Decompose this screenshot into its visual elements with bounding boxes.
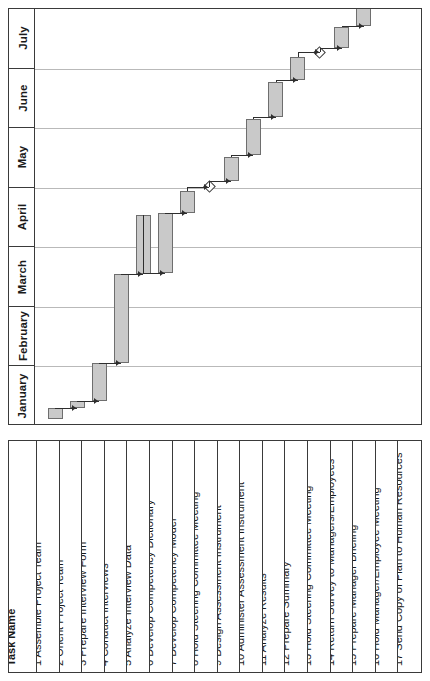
task-row-15[interactable]: 15 Prepare Manager Briefing: [353, 441, 376, 672]
task-label: 3 Prepare Interview Form: [82, 542, 87, 666]
dependency-arrow: [359, 23, 363, 29]
task-row-1[interactable]: 1 Assemble Project Team: [37, 441, 60, 672]
gantt-bar-task-1: [48, 408, 63, 419]
task-row-6[interactable]: 6 Develop Competency Dictionary: [150, 441, 173, 672]
month-label-text: April: [16, 204, 28, 231]
gantt-plot-area: [35, 8, 422, 425]
task-row-17[interactable]: 17 Send Copy of Plan to Human Resources: [398, 441, 421, 672]
task-row-11[interactable]: 11 Analyze Results: [263, 441, 286, 672]
task-label: 8 Hold Steering Committee Meeting: [195, 492, 200, 666]
task-label: 14 Return Survey to Managers/Employees: [331, 459, 336, 666]
month-label-text: February: [17, 311, 29, 361]
task-name-table: Task Name1 Assemble Project Team2 Orient…: [8, 440, 422, 673]
task-label: 16 Hold Manager/Employee Meeting: [376, 487, 381, 666]
month-label-text: March: [17, 259, 29, 293]
task-row-8[interactable]: 8 Hold Steering Committee Meeting: [195, 441, 218, 672]
task-label: 5 Analyze Interview Data: [127, 545, 132, 666]
task-label: 12 Prepare Summary: [285, 561, 290, 666]
task-label: 10 Administer Assessment Instrument: [240, 482, 245, 666]
month-label-april: April: [9, 188, 36, 248]
gantt-bar-task-11: [268, 82, 283, 118]
dependency-arrow: [248, 152, 252, 158]
task-row-5[interactable]: 5 Analyze Interview Data: [127, 441, 150, 672]
task-label: 7 Develop Competency Model: [173, 519, 178, 666]
gantt-bar-task-10: [246, 119, 261, 155]
task-row-9[interactable]: 9 Design Assessment Instrument: [218, 441, 241, 672]
task-label: 9 Design Assessment Instrument: [218, 505, 223, 666]
gantt-bar-task-4: [114, 274, 129, 363]
month-gridline: [35, 128, 421, 129]
month-label-text: July: [16, 27, 28, 50]
task-row-7[interactable]: 7 Develop Competency Model: [173, 441, 196, 672]
month-label-january: January: [9, 366, 36, 426]
dependency-arrow: [160, 270, 164, 276]
gantt-chart: JulyJuneMayAprilMarchFebruaryJanuary Tas…: [0, 0, 430, 681]
task-label: 11 Analyze Results: [263, 573, 268, 666]
month-label-may: May: [9, 128, 36, 188]
task-label: 2 Orient Project Team: [60, 560, 65, 666]
dependency-arrow: [271, 114, 275, 120]
month-label-june: June: [9, 69, 36, 129]
task-row-13[interactable]: 13 Hold Steering Committee Meeting: [308, 441, 331, 672]
dependency-arrow: [226, 178, 230, 184]
month-gridline: [35, 247, 421, 248]
month-label-text: May: [16, 146, 28, 169]
dependency-link: [143, 215, 144, 273]
task-label: 1 Assemble Project Team: [37, 542, 42, 666]
month-label-february: February: [9, 307, 36, 367]
dependency-arrow: [315, 49, 319, 55]
task-row-12[interactable]: 12 Prepare Summary: [285, 441, 308, 672]
dependency-arrow: [138, 271, 142, 277]
task-label: 6 Develop Competency Dictionary: [150, 500, 155, 666]
month-gridline: [35, 69, 421, 70]
month-gridline: [35, 307, 421, 308]
dependency-arrow: [182, 210, 186, 216]
dependency-arrow: [72, 405, 76, 411]
task-label: 17 Send Copy of Plan to Human Resources: [398, 453, 404, 666]
month-label-march: March: [9, 247, 36, 307]
dependency-arrow: [204, 184, 208, 190]
month-gridline: [35, 188, 421, 189]
dependency-arrow: [94, 398, 98, 404]
month-label-july: July: [9, 9, 36, 69]
gantt-bar-task-3: [92, 363, 107, 401]
task-label: 13 Hold Steering Committee Meeting: [308, 486, 313, 666]
dependency-arrow: [337, 45, 341, 51]
task-label: 15 Prepare Manager Briefing: [353, 525, 358, 666]
task-row-3[interactable]: 3 Prepare Interview Form: [82, 441, 105, 672]
task-row-14[interactable]: 14 Return Survey to Managers/Employees: [331, 441, 354, 672]
task-row-2[interactable]: 2 Orient Project Team: [60, 441, 83, 672]
month-axis: JulyJuneMayAprilMarchFebruaryJanuary: [8, 8, 35, 425]
task-label: 4 Conduct Interviews: [105, 563, 110, 666]
task-row-10[interactable]: 10 Administer Assessment Instrument: [240, 441, 263, 672]
dependency-arrow: [293, 77, 297, 83]
gantt-bar-task-6: [158, 213, 173, 273]
task-name-column-header: Task Name: [9, 609, 17, 666]
task-row-4[interactable]: 4 Conduct Interviews: [105, 441, 128, 672]
task-table-header: Task Name: [9, 441, 37, 672]
month-label-text: January: [17, 374, 29, 419]
month-label-text: June: [17, 84, 29, 111]
task-row-16[interactable]: 16 Hold Manager/Employee Meeting: [376, 441, 399, 672]
dependency-arrow: [116, 360, 120, 366]
